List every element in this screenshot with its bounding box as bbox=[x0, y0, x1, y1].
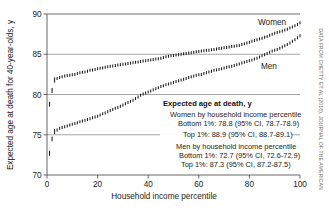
series-label-women: Women bbox=[258, 18, 287, 27]
legend-women-top: Top 1%: 88.9 (95% CI, 88.7-89.1) bbox=[183, 130, 293, 139]
svg-text:20: 20 bbox=[93, 180, 103, 189]
source-credit: DATA FROM CHETTY ET AL (2016), JOURNAL O… bbox=[314, 0, 328, 218]
svg-text:100: 100 bbox=[293, 180, 307, 189]
legend-women-heading: Women by household income percentile bbox=[170, 110, 301, 119]
series-label-men: Men bbox=[261, 62, 277, 71]
svg-text:85: 85 bbox=[32, 50, 42, 59]
x-axis-ticks bbox=[47, 175, 300, 179]
legend-title: Expected age at death, y bbox=[163, 99, 252, 108]
legend-men-top: Top 1%: 87.3 (95% CI, 87.2-87.5) bbox=[181, 160, 291, 169]
svg-text:0: 0 bbox=[45, 180, 50, 189]
legend-women-bottom: Bottom 1%: 78.8 (95% CI, 78.7-78.9) bbox=[178, 119, 299, 128]
expected-age-at-death-chart: 7075808590 020406080100 Women Men Expect… bbox=[0, 0, 329, 218]
x-axis-tick-labels: 020406080100 bbox=[45, 180, 308, 189]
svg-text:70: 70 bbox=[32, 171, 42, 180]
y-axis-tick-labels: 7075808590 bbox=[32, 10, 42, 180]
svg-text:60: 60 bbox=[194, 180, 204, 189]
svg-text:80: 80 bbox=[245, 180, 255, 189]
legend-men-heading: Men by household income percentile bbox=[176, 142, 296, 151]
y-axis-ticks bbox=[44, 14, 48, 175]
svg-text:40: 40 bbox=[144, 180, 154, 189]
svg-text:90: 90 bbox=[32, 10, 42, 19]
source-credit-text: DATA FROM CHETTY ET AL (2016), JOURNAL O… bbox=[318, 28, 324, 190]
legend-block: Expected age at death, y Women by househ… bbox=[150, 97, 301, 171]
legend-men-bottom: Bottom 1%: 72.7 (95% CI, 72.6-72.9) bbox=[179, 151, 300, 160]
svg-text:80: 80 bbox=[32, 91, 42, 100]
svg-text:75: 75 bbox=[32, 131, 42, 140]
figure-panel: 7075808590 020406080100 Women Men Expect… bbox=[0, 0, 329, 218]
y-axis-title: Expected age at death for 40-year-olds, … bbox=[6, 19, 15, 170]
x-axis-title: Household income percentile bbox=[111, 192, 217, 201]
